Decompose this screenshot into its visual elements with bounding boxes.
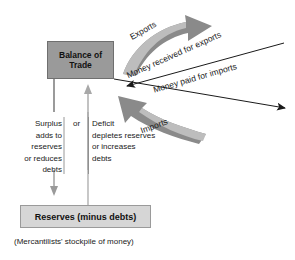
- reserves-box: Reserves (minus debts): [20, 205, 151, 228]
- balance-of-trade-label: Balance of Trade: [48, 50, 113, 70]
- deficit-connector-line: [84, 84, 92, 205]
- balance-of-trade-diagram: Balance of Trade Reserves (minus debts) …: [0, 0, 295, 260]
- or-connector-text: or: [67, 118, 86, 130]
- deficit-branch-text: Deficit depletes reserves or increases d…: [92, 118, 182, 164]
- reserves-label: Reserves (minus debts): [35, 212, 137, 222]
- balance-of-trade-box: Balance of Trade: [47, 41, 114, 79]
- surplus-branch-text: Surplus adds to reserves or reduces debt…: [6, 118, 62, 176]
- diagram-caption: (Mercantilists' stockpile of money): [14, 236, 134, 248]
